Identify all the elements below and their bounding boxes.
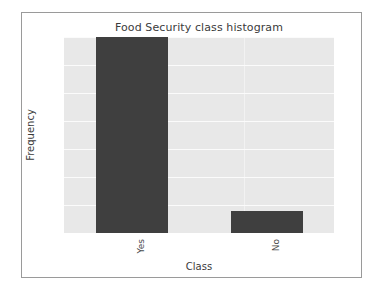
figure-frame: Food Security class histogram Frequency … bbox=[21, 12, 362, 278]
bar-no bbox=[231, 211, 303, 233]
x-axis-tick-label: Yes bbox=[136, 239, 146, 254]
x-axis-tick-label: No bbox=[271, 239, 281, 251]
bar-yes bbox=[96, 37, 168, 233]
plot-area: 05101520253035 bbox=[64, 37, 334, 233]
x-axis-label: Class bbox=[64, 261, 334, 272]
y-axis-label: Frequency bbox=[25, 109, 36, 161]
chart-title: Food Security class histogram bbox=[64, 21, 334, 34]
vertical-gridline bbox=[244, 37, 245, 233]
